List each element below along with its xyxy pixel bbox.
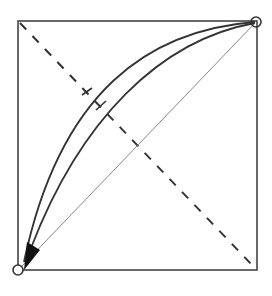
arrowhead-icon [24,242,40,270]
tick-mark-inner [96,101,106,110]
end-circle-icon [13,265,23,275]
outer-curve [24,22,255,262]
diagram-canvas [0,0,272,296]
